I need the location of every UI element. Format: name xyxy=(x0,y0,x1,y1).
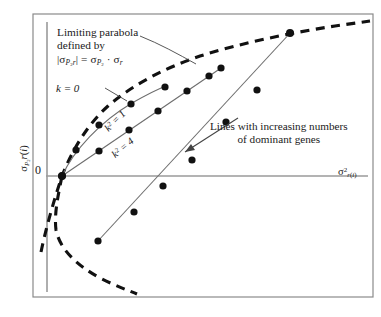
annotation-parabola-line1: Limiting parabola xyxy=(57,26,138,38)
annotation-parabola-line2: defined by xyxy=(57,39,138,52)
annotation-limiting-parabola: Limiting parabola defined by |σP2r| = σP… xyxy=(57,26,138,68)
line-k0 xyxy=(58,83,168,179)
origin-label: 0 xyxy=(35,163,41,177)
x-axis-label: σ2r(i) xyxy=(338,166,357,179)
annotation-parabola-formula: |σP2r| = σP2 · σr xyxy=(57,53,123,65)
annotation-dominant-genes: Lines with increasing numbers of dominan… xyxy=(210,120,348,146)
annotation-lines-line1: Lines with increasing numbers xyxy=(210,120,348,132)
leader-line-parabola xyxy=(140,36,196,64)
origin-marker xyxy=(58,172,66,180)
figure-container: Limiting parabola defined by |σP2r| = σP… xyxy=(0,0,381,317)
annotation-lines-line2: of dominant genes xyxy=(237,133,320,145)
limiting-parabola-lower xyxy=(55,176,137,294)
curve-label-k0: k = 0 xyxy=(56,82,79,95)
y-axis-label: σP2r(i) xyxy=(18,127,31,191)
